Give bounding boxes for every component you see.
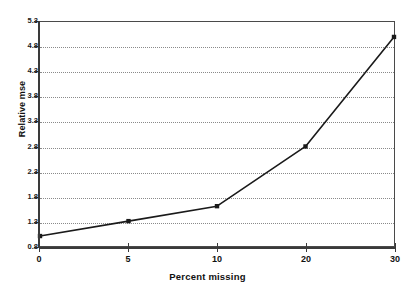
x-tick-mark (306, 243, 307, 252)
x-tick-label: 30 (375, 254, 415, 264)
x-tick-label: 5 (108, 254, 148, 264)
chart-container: 0.81.31.82.32.83.33.84.34.85.3 Relative … (0, 0, 415, 293)
data-point-marker (215, 204, 219, 208)
data-point-marker (303, 144, 307, 148)
data-series-line (40, 22, 394, 246)
x-tick-mark (128, 243, 129, 252)
x-tick-label: 10 (197, 254, 237, 264)
y-tick-label: 1.3 (8, 218, 38, 226)
plot-area (39, 21, 395, 247)
y-tick-label: 1.8 (8, 193, 38, 201)
x-tick-mark (395, 243, 396, 252)
data-point-marker (126, 219, 130, 223)
y-tick-label: 0.8 (8, 243, 38, 251)
y-tick-label: 5.3 (8, 17, 38, 25)
x-tick-label: 0 (19, 254, 59, 264)
y-axis-title: Relative mse (17, 49, 27, 169)
y-axis-line (38, 21, 40, 248)
x-tick-label: 20 (286, 254, 326, 264)
data-point-marker (392, 35, 396, 39)
x-axis-title: Percent missing (0, 271, 415, 282)
x-tick-mark (39, 243, 40, 252)
x-tick-mark (217, 243, 218, 252)
